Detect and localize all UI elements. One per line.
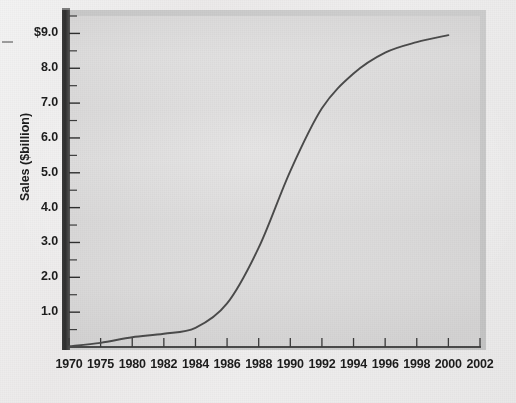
y-tick-label: 1.0 [2, 305, 58, 318]
x-tick-label: 1996 [372, 357, 399, 371]
x-tick-label: 1982 [150, 357, 177, 371]
chart-canvas [0, 0, 516, 403]
x-tick-label: 1990 [277, 357, 304, 371]
x-tick-label: 1992 [308, 357, 335, 371]
y-tick-label: $9.0 [2, 26, 58, 39]
sales-line-series [69, 35, 448, 346]
x-tick-label: 1970 [55, 357, 82, 371]
x-tick-label: 1988 [245, 357, 272, 371]
chart-screenshot: 1.02.03.04.05.06.07.08.0$9.0 19701975198… [0, 0, 516, 403]
x-tick-label: 1984 [182, 357, 209, 371]
y-tick-label: 2.0 [2, 270, 58, 283]
x-tick-label: 2000 [435, 357, 462, 371]
y-tick-label: 8.0 [2, 61, 58, 74]
y-axis-ticks [69, 16, 80, 330]
line-chart-figure: 1.02.03.04.05.06.07.08.0$9.0 19701975198… [0, 0, 516, 403]
x-axis-ticks [69, 338, 480, 347]
y-tick-label: 3.0 [2, 235, 58, 248]
x-tick-label: 1975 [87, 357, 114, 371]
x-tick-label: 2002 [466, 357, 493, 371]
x-tick-label: 1980 [119, 357, 146, 371]
x-tick-label: 1986 [214, 357, 241, 371]
y-axis-title: Sales ($billion) [18, 97, 32, 217]
x-tick-label: 1994 [340, 357, 367, 371]
x-tick-label: 1998 [403, 357, 430, 371]
